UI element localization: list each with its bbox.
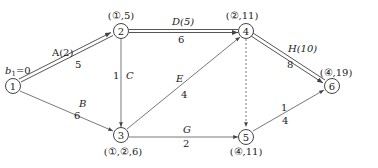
edge-name: C [126, 70, 134, 81]
edge-weight: 8 [287, 59, 293, 70]
node-annotation: (④,19) [320, 67, 353, 78]
edge-4-6: H(10) 8 [251, 33, 325, 83]
svg-text:2: 2 [118, 26, 124, 37]
edge-1-3: B 6 [20, 91, 113, 131]
edge-name: A(2) [51, 47, 73, 58]
node-2: 2 (①,5) [108, 10, 134, 39]
svg-text:5: 5 [243, 132, 249, 143]
edge-2-4: D(5) 6 [129, 16, 238, 45]
edge-3-4: E 4 [127, 37, 240, 129]
node-3: 3 (①,②,6) [104, 128, 143, 158]
edge-name: G [183, 124, 191, 135]
node-1: 1 [6, 79, 21, 94]
edge-name: 1 [281, 102, 287, 113]
edge-name: B [78, 98, 86, 109]
network-diagram: A(2) 5 B 6 C 1 D(5) 6 E 4 [0, 0, 378, 168]
edge-weight: 6 [74, 110, 80, 121]
node-5: 5 (④,11) [230, 130, 263, 158]
edge-weight: 5 [75, 59, 81, 70]
edge-weight: 2 [183, 138, 189, 149]
start-label: b1=0 [5, 65, 31, 78]
edge-5-6: 1 4 [253, 90, 324, 131]
node-annotation: (④,11) [230, 146, 263, 157]
edge-weight: 6 [178, 34, 184, 45]
edge-3-5: G 2 [129, 124, 238, 149]
node-annotation: (①,5) [108, 10, 134, 21]
edge-weight: 4 [181, 89, 187, 100]
edge-1-2: A(2) 5 [19, 33, 113, 83]
edge-2-3: C 1 [113, 39, 134, 127]
edge-name: D(5) [171, 16, 194, 27]
edge-weight: 4 [282, 115, 288, 126]
svg-text:6: 6 [329, 81, 335, 92]
edge-name: E [175, 73, 184, 84]
svg-text:4: 4 [243, 26, 249, 37]
svg-text:1: 1 [10, 81, 16, 92]
edge-weight: 1 [113, 70, 119, 81]
node-annotation: (②,11) [226, 10, 259, 21]
node-annotation: (①,②,6) [104, 146, 143, 157]
svg-text:3: 3 [118, 130, 124, 141]
node-4: 4 (②,11) [226, 10, 259, 39]
edge-name: H(10) [287, 43, 317, 54]
